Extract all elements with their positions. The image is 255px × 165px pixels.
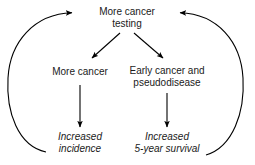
diagram-canvas: More cancer testing More cancer Early ca… bbox=[0, 0, 255, 165]
node-increased-survival-line2: 5-year survival bbox=[117, 143, 217, 155]
node-increased-incidence-line2: incidence bbox=[34, 143, 126, 155]
node-more-cancer-testing: More cancer testing bbox=[77, 6, 177, 29]
node-more-cancer-testing-line1: More cancer bbox=[77, 6, 177, 18]
edge-fork-right bbox=[134, 33, 163, 58]
node-early-cancer-line2: pseudodisease bbox=[117, 77, 217, 89]
node-increased-survival-line1: Increased bbox=[117, 131, 217, 143]
node-increased-incidence: Increased incidence bbox=[34, 131, 126, 154]
node-more-cancer-line1: More cancer bbox=[34, 66, 126, 78]
node-early-cancer-line1: Early cancer and bbox=[117, 65, 217, 77]
node-increased-5-year-survival: Increased 5-year survival bbox=[117, 131, 217, 154]
node-more-cancer-testing-line2: testing bbox=[77, 18, 177, 30]
node-increased-incidence-line1: Increased bbox=[34, 131, 126, 143]
node-more-cancer: More cancer bbox=[34, 66, 126, 78]
node-early-cancer-and-pseudodisease: Early cancer and pseudodisease bbox=[117, 65, 217, 88]
edge-fork-left bbox=[92, 33, 120, 58]
